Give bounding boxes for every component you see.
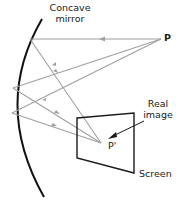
screen-label: Screen bbox=[139, 168, 172, 179]
real-image-label-line1: Real bbox=[140, 98, 176, 109]
real-image-pointer bbox=[113, 121, 144, 136]
mirror-label-line1: Concave bbox=[44, 2, 96, 13]
mirror-label: Concave mirror bbox=[44, 2, 96, 24]
real-image-label-line2: image bbox=[140, 109, 176, 120]
image-point-label: P' bbox=[108, 140, 116, 151]
object-point-label: P bbox=[164, 32, 171, 43]
screen bbox=[77, 113, 134, 173]
real-image-label: Real image bbox=[140, 98, 176, 120]
arrow-head-icon bbox=[108, 132, 117, 139]
mirror-label-line2: mirror bbox=[44, 13, 96, 24]
